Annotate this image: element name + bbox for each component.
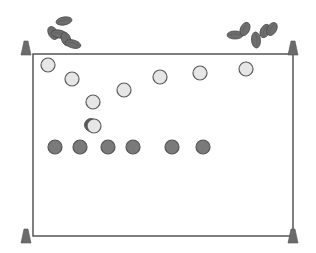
- attacker-player: [239, 62, 253, 76]
- cone-icon: [21, 41, 31, 55]
- ball-pile-left: [46, 16, 82, 50]
- attacker-player: [153, 70, 167, 84]
- defender-player: [196, 140, 210, 154]
- attacker-player: [86, 95, 100, 109]
- defender-player: [126, 140, 140, 154]
- cone-icon: [288, 229, 298, 243]
- attacker-player: [65, 72, 79, 86]
- defender-player: [48, 140, 62, 154]
- defender-player: [73, 140, 87, 154]
- defender-player: [165, 140, 179, 154]
- attacker-player: [193, 66, 207, 80]
- attacker-player: [87, 119, 101, 133]
- cone-icon: [288, 41, 298, 55]
- drill-diagram: [0, 0, 316, 253]
- attacker-player: [41, 58, 55, 72]
- rugby-ball-icon: [55, 16, 72, 27]
- defender-player: [101, 140, 115, 154]
- ball-pile-right: [227, 21, 279, 49]
- attacker-player: [117, 83, 131, 97]
- rugby-ball-icon: [64, 38, 82, 50]
- cone-icon: [21, 229, 31, 243]
